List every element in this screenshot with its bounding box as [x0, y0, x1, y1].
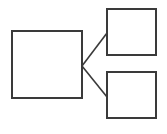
child-bottom-node-box [107, 72, 156, 118]
edge-root-to-bottom [82, 66, 107, 97]
edge-root-to-top [82, 33, 107, 66]
edges [82, 33, 107, 97]
tree-diagram [0, 0, 167, 134]
root-node-box [12, 31, 82, 98]
child-top-node-box [107, 9, 156, 55]
